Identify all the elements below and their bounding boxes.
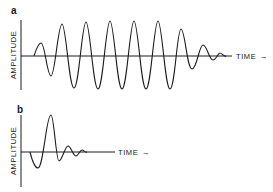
panel-a-x-label: TIME: [236, 52, 256, 61]
panel-a-waveform: [34, 21, 226, 89]
panel-a-arrow-icon: →: [260, 52, 268, 61]
panel-b-x-label: TIME: [118, 148, 138, 157]
panel-b: b AMPLITUDE TIME →: [9, 104, 150, 187]
panel-b-label: b: [17, 104, 23, 115]
panel-a-y-label: AMPLITUDE: [9, 31, 18, 79]
panel-b-arrow-icon: →: [142, 148, 150, 157]
panel-a: a AMPLITUDE TIME →: [9, 5, 268, 90]
panel-b-y-label: AMPLITUDE: [9, 127, 18, 175]
figure: a AMPLITUDE TIME → b AMPLITUDE TIME →: [0, 0, 273, 192]
panel-b-waveform: [30, 115, 87, 168]
panel-a-label: a: [11, 5, 17, 16]
